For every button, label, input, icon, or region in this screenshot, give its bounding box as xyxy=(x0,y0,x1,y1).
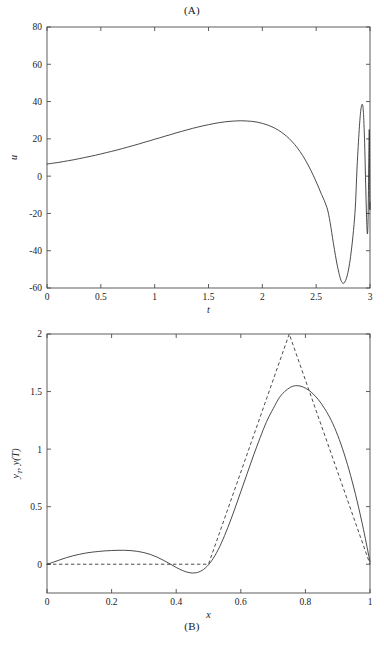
y-tick-label: 40 xyxy=(33,97,43,107)
x-tick-label: 1 xyxy=(368,597,373,607)
x-tick-label: 0.6 xyxy=(235,597,247,607)
x-tick-label: 1 xyxy=(152,292,157,302)
panel-a: (A) 00.511.522.53-60-40-20020406080tu xyxy=(0,0,384,324)
plot-box xyxy=(47,334,370,593)
x-tick-label: 0.4 xyxy=(170,597,182,607)
state-curve xyxy=(47,386,370,573)
x-tick-label: 0.5 xyxy=(95,292,107,302)
y-tick-label: 0.5 xyxy=(30,502,42,512)
x-axis-label: x xyxy=(205,609,211,620)
y-tick-label: 1 xyxy=(37,445,42,455)
panel-a-plot: 00.511.522.53-60-40-20020406080tu xyxy=(0,0,384,324)
y-tick-label: -40 xyxy=(29,246,42,256)
plot-box xyxy=(47,27,370,288)
x-axis-label: t xyxy=(207,304,210,315)
x-tick-label: 0 xyxy=(45,292,50,302)
y-tick-label: 2 xyxy=(37,329,42,339)
x-tick-label: 0.2 xyxy=(106,597,118,607)
panel-b: 00.20.40.60.8100.511.52xyT, y(T) (B) xyxy=(0,324,384,648)
y-tick-label: 80 xyxy=(33,22,43,32)
panel-b-plot: 00.20.40.60.8100.511.52xyT, y(T) xyxy=(0,324,384,648)
x-tick-label: 2.5 xyxy=(310,292,322,302)
y-tick-label: 60 xyxy=(33,60,43,70)
state-curve xyxy=(47,104,370,283)
y-tick-label: -60 xyxy=(29,283,42,293)
y-tick-label: 0 xyxy=(37,560,42,570)
y-axis-label: u xyxy=(8,155,19,160)
y-tick-label: 20 xyxy=(33,134,43,144)
x-tick-label: 1.5 xyxy=(203,292,215,302)
y-tick-label: 0 xyxy=(37,172,42,182)
y-tick-label: 1.5 xyxy=(30,387,42,397)
target-curve xyxy=(47,334,370,564)
x-tick-label: 0 xyxy=(45,597,50,607)
y-tick-label: -20 xyxy=(29,209,42,219)
y-axis-label: yT, y(T) xyxy=(10,448,24,480)
x-tick-label: 0.8 xyxy=(299,597,311,607)
x-tick-label: 3 xyxy=(368,292,373,302)
x-tick-label: 2 xyxy=(260,292,265,302)
panel-b-caption: (B) xyxy=(0,620,384,632)
panel-a-caption: (A) xyxy=(0,4,384,16)
figure-container: (A) 00.511.522.53-60-40-20020406080tu 00… xyxy=(0,0,384,648)
